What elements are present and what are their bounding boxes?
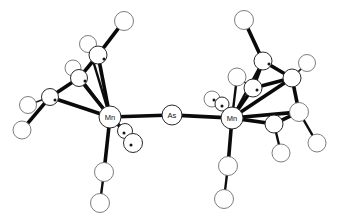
atom-a5 [71,70,88,87]
atom-a12 [91,194,110,213]
bond-a13-a14 [247,26,260,55]
ellipsoid-center-dot [123,132,126,135]
bond-a20-mn-right [240,119,268,123]
ellipsoid-center-dot [221,105,224,108]
atom-a10 [124,134,143,153]
molecular-structure-canvas: MnAsMn [0,0,345,222]
labeled-atom-as-bridge: As [162,105,182,125]
atom-a13 [235,11,254,30]
atom-a6 [42,89,59,106]
atom-a21 [308,134,326,152]
bond-a1-a3 [102,26,120,49]
ellipsoid-center-dot [54,99,57,102]
atom-a22 [272,144,290,162]
ellipsoid-center-dot [130,144,133,147]
labeled-atom-mn-right: Mn [221,107,243,129]
mn-right-label: Mn [227,114,237,123]
atom-a26 [215,190,234,209]
bond-mn-left-as-bridge [118,115,165,117]
bond-a19-a21 [302,118,313,137]
atom-a3 [89,46,107,64]
bond-mn-left-a11 [105,125,109,165]
atom-a15 [228,68,246,86]
ellipsoid-center-dot [103,58,106,61]
ellipsoid-center-dot [84,80,87,83]
bond-as-bridge-mn-right [179,115,224,117]
bond-a17-a19 [293,84,297,105]
molecular-structure-figure: MnAsMn [0,0,345,222]
atom-a19 [290,103,309,122]
ellipsoid-center-dot [268,63,271,66]
atom-a25 [219,157,238,176]
atom-a1 [115,12,134,31]
ellipsoid-center-dot [256,89,259,92]
atom-a8 [13,121,31,139]
atom-a7 [20,97,37,114]
bond-a14-a17 [269,64,287,74]
labeled-atom-mn-left: Mn [99,106,121,128]
atom-a14 [254,52,272,70]
atom-a18 [299,55,316,72]
atom-a17 [283,69,301,87]
bond-a19-mn-right [240,113,292,118]
as-bridge-label: As [168,111,177,120]
atom-a11 [95,163,114,182]
atom-a16 [244,79,262,97]
atom-a20 [265,115,283,133]
bond-a5-a6 [55,81,74,93]
mn-left-label: Mn [105,113,115,122]
bond-mn-right-a25 [229,126,232,159]
bond-a15-mn-right [233,83,236,110]
ellipsoid-center-dot [213,99,216,102]
